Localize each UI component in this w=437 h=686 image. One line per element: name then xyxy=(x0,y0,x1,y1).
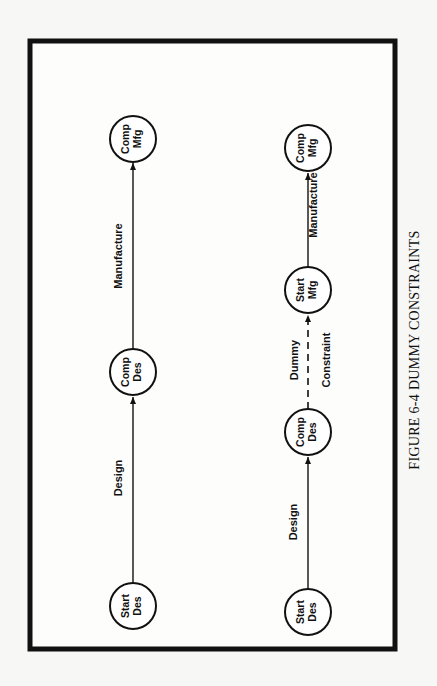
node-start-mfg-b: Start Mfg xyxy=(285,267,331,313)
svg-text:Start: Start xyxy=(294,278,306,302)
node-comp-mfg-a: Comp Mfg xyxy=(110,116,156,162)
svg-text:Comp: Comp xyxy=(294,133,306,163)
svg-text:Comp: Comp xyxy=(294,417,306,447)
edge-label-design-a: Design xyxy=(112,459,124,496)
edge-label-dummy-b: Dummy xyxy=(288,339,300,380)
svg-text:Mfg: Mfg xyxy=(306,139,318,158)
node-comp-des-b: Comp Des xyxy=(285,409,331,455)
svg-text:Des: Des xyxy=(131,362,143,381)
edge-label-manufacture-a: Manufacture xyxy=(112,223,124,288)
svg-text:Start: Start xyxy=(294,600,306,624)
node-start-des-b: Start Des xyxy=(285,589,331,635)
edge-label-design-b: Design xyxy=(287,503,299,540)
node-start-des-a: Start Des xyxy=(110,583,156,629)
edge-label-constraint-b: Constraint xyxy=(320,332,332,387)
svg-text:Des: Des xyxy=(306,422,318,441)
svg-text:Mfg: Mfg xyxy=(131,130,143,149)
figure-caption: FIGURE 6-4 DUMMY CONSTRAINTS xyxy=(407,230,422,469)
svg-text:Des: Des xyxy=(131,596,143,615)
svg-text:Comp: Comp xyxy=(119,124,131,154)
dummy-constraints-figure: Design Manufacture Start Des Comp Des Co… xyxy=(0,0,437,686)
svg-text:Start: Start xyxy=(119,594,131,618)
figure-frame xyxy=(30,41,395,649)
svg-text:Comp: Comp xyxy=(119,357,131,387)
edge-label-manufacture-b: Manufacture xyxy=(307,172,319,237)
node-comp-des-a: Comp Des xyxy=(110,349,156,395)
svg-text:Des: Des xyxy=(306,602,318,621)
svg-text:Mfg: Mfg xyxy=(306,281,318,300)
node-comp-mfg-b: Comp Mfg xyxy=(285,125,331,171)
